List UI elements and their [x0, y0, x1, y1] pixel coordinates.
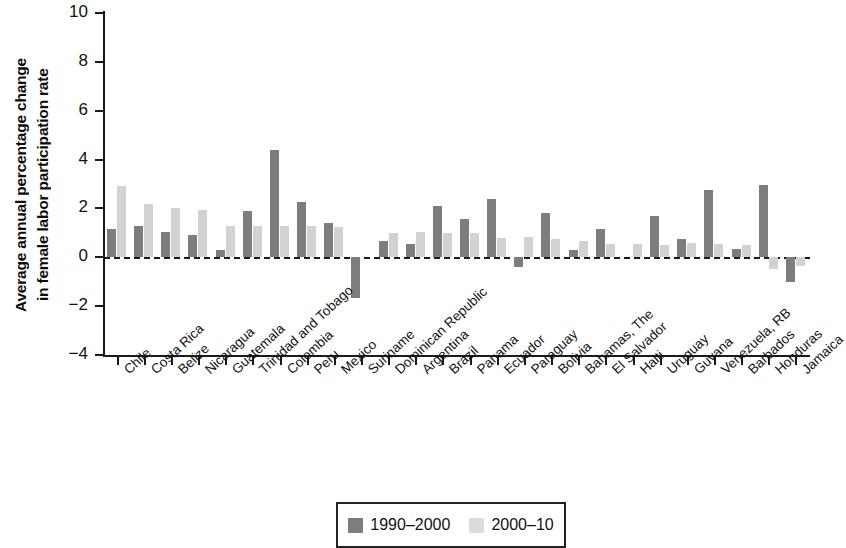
y-tick-6	[95, 110, 104, 112]
y-tick-label-10: 10	[48, 2, 88, 22]
x-label-anchor: Uruguay	[664, 366, 665, 367]
bar	[796, 257, 805, 266]
bar-group	[593, 13, 620, 355]
y-tick-2	[95, 207, 104, 209]
bar	[188, 235, 197, 257]
x-label-anchor: Brazil	[446, 366, 447, 367]
bar-group	[348, 13, 375, 355]
bar	[742, 245, 751, 257]
bar	[497, 238, 506, 258]
bar	[433, 206, 442, 257]
x-label-anchor: Honduras	[772, 366, 773, 367]
bar-group	[104, 13, 131, 355]
bar	[443, 233, 452, 257]
bar	[324, 223, 333, 257]
bar	[569, 250, 578, 257]
x-label-anchor: Belize	[175, 366, 176, 367]
bar	[660, 245, 669, 257]
bar-group	[756, 13, 783, 355]
bar	[633, 244, 642, 257]
bar	[243, 211, 252, 257]
x-label-anchor: Chile	[121, 366, 122, 367]
bar	[769, 257, 778, 269]
bar-group	[131, 13, 158, 355]
legend-label-2000-10: 2000–10	[491, 516, 553, 534]
y-tick--4	[95, 354, 104, 356]
bar-group	[403, 13, 430, 355]
bar	[732, 249, 741, 258]
bar	[117, 186, 126, 257]
x-label-anchor: Peru	[311, 366, 312, 367]
bar	[171, 208, 180, 257]
bar-group	[701, 13, 728, 355]
bar	[198, 210, 207, 258]
bar	[460, 219, 469, 257]
bar	[161, 232, 170, 258]
bar-group	[158, 13, 185, 355]
bar	[541, 213, 550, 257]
bar-group	[729, 13, 756, 355]
y-tick-label-2: 2	[48, 197, 88, 217]
x-label-anchor: Haiti	[637, 366, 638, 367]
bar	[551, 239, 560, 257]
x-label-anchor: Barbados	[745, 366, 746, 367]
x-label-anchor: Jamaica	[799, 366, 800, 367]
bar	[280, 226, 289, 258]
x-label-anchor: Suriname	[365, 366, 366, 367]
bar	[596, 229, 605, 257]
y-tick-0	[95, 256, 104, 258]
y-tick-10	[95, 12, 104, 14]
y-tick-4	[95, 159, 104, 161]
x-label-anchor: Panama	[474, 366, 475, 367]
bar	[786, 257, 795, 281]
y-tick-label-6: 6	[48, 100, 88, 120]
legend-swatch-2000-10	[469, 518, 484, 533]
chart-legend: 1990–2000 2000–10	[336, 502, 566, 548]
bar	[297, 202, 306, 257]
bar-group	[538, 13, 565, 355]
bar-group	[647, 13, 674, 355]
y-tick-label-8: 8	[48, 51, 88, 71]
bar-group	[783, 13, 810, 355]
bar	[606, 244, 615, 257]
x-label-anchor: Guatemala	[229, 366, 230, 367]
bar	[470, 233, 479, 257]
legend-item-2000-10: 2000–10	[469, 516, 553, 534]
bar-group	[620, 13, 647, 355]
bar	[714, 244, 723, 257]
bar	[416, 232, 425, 258]
bar	[704, 190, 713, 257]
x-tick	[117, 357, 119, 365]
legend-swatch-1990-2000	[348, 518, 363, 533]
bar	[270, 150, 279, 257]
x-label-anchor: El Salvador	[609, 366, 610, 367]
x-label-anchor: Mexico	[338, 366, 339, 367]
x-label-anchor: Bolivia	[555, 366, 556, 367]
bar	[134, 226, 143, 258]
x-label-anchor: Costa Rica	[148, 366, 149, 367]
bar	[253, 226, 262, 258]
bar	[216, 250, 225, 257]
bar	[307, 226, 316, 258]
bar	[406, 244, 415, 257]
bar	[650, 216, 659, 258]
bar	[514, 257, 523, 267]
y-tick-label--4: −4	[48, 344, 88, 364]
y-tick--2	[95, 305, 104, 307]
x-label-anchor: Nicaragua	[202, 366, 203, 367]
legend-item-1990-2000: 1990–2000	[348, 516, 450, 534]
bar-group	[240, 13, 267, 355]
bar	[107, 229, 116, 257]
bar-group	[294, 13, 321, 355]
bar-group	[674, 13, 701, 355]
y-tick-label-4: 4	[48, 149, 88, 169]
x-label-anchor: Colombia	[284, 366, 285, 367]
x-label-anchor: Trinidad and Tobago	[256, 366, 257, 367]
y-tick-8	[95, 61, 104, 63]
legend-label-1990-2000: 1990–2000	[370, 516, 450, 534]
bar-group	[376, 13, 403, 355]
x-label-anchor: Paraguay	[528, 366, 529, 367]
bar	[687, 243, 696, 258]
bar-group	[566, 13, 593, 355]
bar	[226, 226, 235, 258]
